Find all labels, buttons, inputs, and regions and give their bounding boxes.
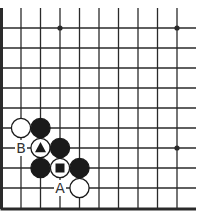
black-stone — [31, 118, 50, 137]
stones — [11, 118, 89, 197]
point-label-a: A — [55, 180, 65, 196]
white-stone — [11, 118, 30, 137]
go-board-diagram: BA — [0, 0, 202, 220]
black-stone — [31, 158, 50, 177]
star-point-icon — [57, 25, 62, 30]
black-stone — [50, 138, 69, 157]
square-marker-icon — [56, 164, 65, 173]
board-grid — [1, 8, 197, 209]
point-label-b: B — [16, 140, 26, 156]
star-point-icon — [174, 145, 179, 150]
star-point-icon — [174, 25, 179, 30]
white-stone — [70, 178, 89, 197]
black-stone — [70, 158, 89, 177]
